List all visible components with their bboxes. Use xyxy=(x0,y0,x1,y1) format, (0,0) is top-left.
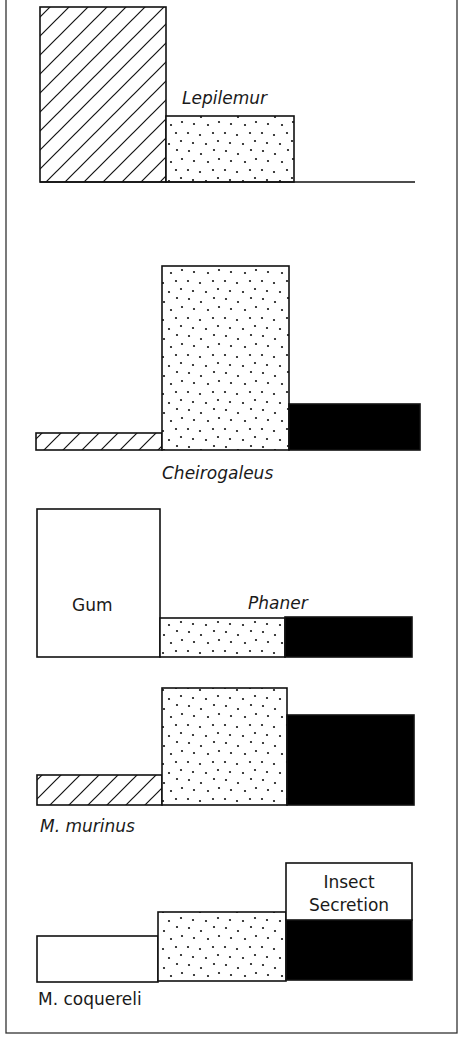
panel-lepilemur: Lepilemur xyxy=(40,7,415,182)
bar-dotted xyxy=(160,618,285,657)
panel-m-coquereli: InsectSecretionM. coquereli xyxy=(37,863,412,1009)
species-label: Phaner xyxy=(248,593,309,613)
bar-hatched xyxy=(36,433,162,450)
panel-m-murinus: M. murinus xyxy=(37,688,414,836)
species-label: Cheirogaleus xyxy=(162,463,273,483)
panel-cheirogaleus: Cheirogaleus xyxy=(36,266,420,483)
species-label: M. murinus xyxy=(40,816,135,836)
bar-white xyxy=(37,936,158,982)
species-label: M. coquereli xyxy=(38,989,142,1009)
bar-hatched xyxy=(37,775,162,805)
bar-black xyxy=(286,920,412,980)
panel-phaner: GumPhaner xyxy=(37,509,412,657)
bar-inner-label: Gum xyxy=(72,595,113,615)
bar-black xyxy=(285,617,412,657)
species-label: Lepilemur xyxy=(182,88,268,108)
bar-dotted xyxy=(158,912,286,981)
bar-dotted xyxy=(166,116,294,182)
bar-hatched xyxy=(40,7,166,182)
bar-black xyxy=(289,404,420,450)
bar-white xyxy=(37,509,160,657)
species-panels: LepilemurCheirogaleusGumPhanerM. murinus… xyxy=(36,7,420,1009)
diet-composition-figure: LepilemurCheirogaleusGumPhanerM. murinus… xyxy=(0,0,464,1039)
bar-black xyxy=(287,715,414,805)
bar-dotted xyxy=(162,266,289,450)
bar-dotted xyxy=(162,688,287,805)
